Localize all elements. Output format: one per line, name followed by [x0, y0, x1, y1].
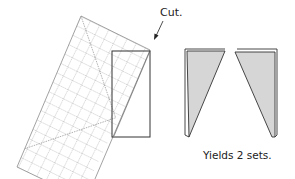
right-triangle-piece: [235, 49, 277, 137]
cut-arrow: [154, 21, 163, 40]
quilting-ruler: [0, 16, 153, 179]
left-triangle-piece: [185, 49, 225, 137]
cut-label: Cut.: [160, 6, 182, 19]
yield-label: Yields 2 sets.: [203, 149, 272, 161]
